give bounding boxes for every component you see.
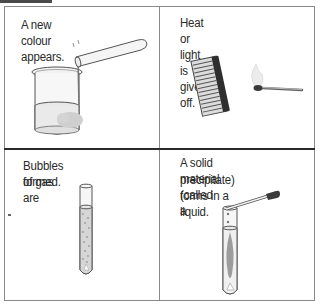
test-tube-with-dropper-precipitate-icon bbox=[0, 0, 321, 306]
